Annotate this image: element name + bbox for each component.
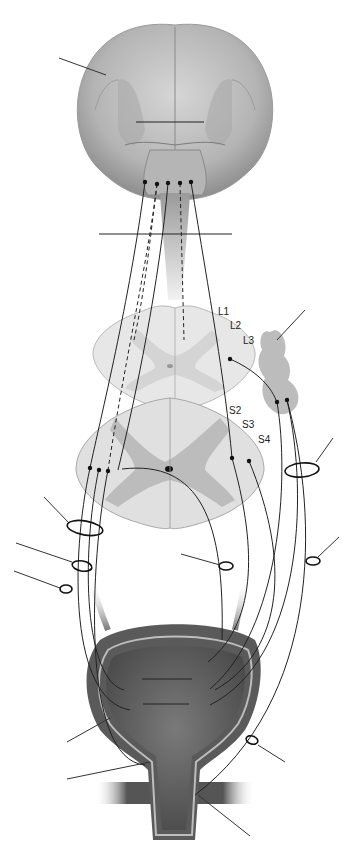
label-L1: L1 xyxy=(218,306,230,317)
label-S2: S2 xyxy=(229,405,242,416)
label-S3: S3 xyxy=(242,419,255,430)
urinary-bladder xyxy=(87,624,261,840)
spinal-cord xyxy=(160,193,190,300)
label-L3: L3 xyxy=(243,335,255,346)
bladder-innervation-diagram: L1 L2 L3 S2 S3 S4 xyxy=(0,0,355,859)
leader-line xyxy=(277,310,305,340)
brain xyxy=(59,24,273,200)
sympathetic-ganglion xyxy=(258,310,305,414)
spinal-cord-sacral-section xyxy=(76,398,264,529)
label-L2: L2 xyxy=(230,320,242,331)
label-S4: S4 xyxy=(258,434,271,445)
